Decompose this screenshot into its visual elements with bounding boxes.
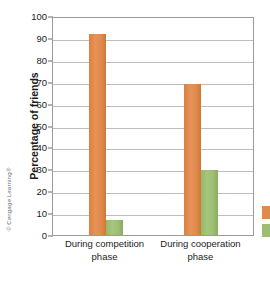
x-axis-label-1: During competition phase <box>53 238 157 263</box>
bar-group-container <box>53 18 253 235</box>
legend-swatch-series-2 <box>262 224 270 237</box>
plot-area <box>52 17 254 236</box>
y-axis-tick-labels: 0102030405060708090100 <box>22 17 47 236</box>
bar-series-1-group-1 <box>89 34 106 235</box>
chart-figure: © Cengage Learning® Percentage of friend… <box>0 0 270 281</box>
y-tick-label: 80 <box>22 56 47 66</box>
legend-swatch-series-1 <box>262 206 270 219</box>
x-axis-label-2: During cooperation phase <box>148 238 252 263</box>
bar-series-1-group-2 <box>184 84 201 235</box>
y-tick-label: 0 <box>22 231 47 241</box>
y-tick-label: 40 <box>22 144 47 154</box>
y-tick-label: 20 <box>22 187 47 197</box>
y-tick-label: 10 <box>22 209 47 219</box>
y-tick-label: 90 <box>22 34 47 44</box>
y-tick-label: 50 <box>22 122 47 132</box>
legend <box>262 206 270 242</box>
y-tick-label: 30 <box>22 166 47 176</box>
x-axis-category-labels: During competition phaseDuring cooperati… <box>52 238 254 278</box>
copyright-credit: © Cengage Learning® <box>5 164 12 236</box>
bar-series-2-group-1 <box>106 220 123 235</box>
y-tick-label: 100 <box>22 12 47 22</box>
bar-series-2-group-2 <box>201 170 218 235</box>
y-tick-label: 70 <box>22 78 47 88</box>
y-tick-label: 60 <box>22 100 47 110</box>
